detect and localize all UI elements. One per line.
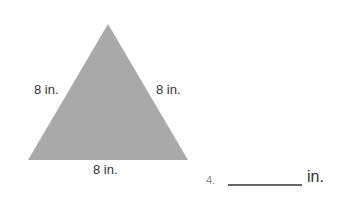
left-side-label: 8 in. — [34, 82, 59, 97]
answer-unit: in. — [307, 168, 324, 186]
answer-blank[interactable] — [228, 170, 302, 186]
triangle-figure — [0, 0, 351, 197]
right-side-label: 8 in. — [156, 82, 181, 97]
bottom-side-label: 8 in. — [93, 162, 118, 177]
question-number: 4. — [206, 174, 215, 186]
